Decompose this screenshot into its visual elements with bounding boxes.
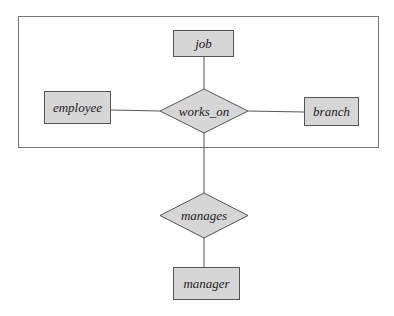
relationship-manages-label: manages [181,208,227,223]
edge-works-on-branch [248,111,304,112]
relationship-works-on[interactable]: works_on [160,89,248,133]
relationship-works-on-label: works_on [179,104,230,119]
entity-branch[interactable]: branch [305,98,359,126]
relationship-manages[interactable]: manages [160,193,248,238]
edge-employee-works-on [111,110,160,111]
entity-manager[interactable]: manager [174,268,240,300]
entity-employee-label: employee [53,100,102,115]
entity-employee[interactable]: employee [45,92,111,124]
er-diagram: job employee works_on branch manages man… [0,0,394,316]
entity-job-label: job [193,36,212,51]
entity-manager-label: manager [183,276,230,291]
entity-job[interactable]: job [174,31,234,57]
entity-branch-label: branch [313,104,350,119]
